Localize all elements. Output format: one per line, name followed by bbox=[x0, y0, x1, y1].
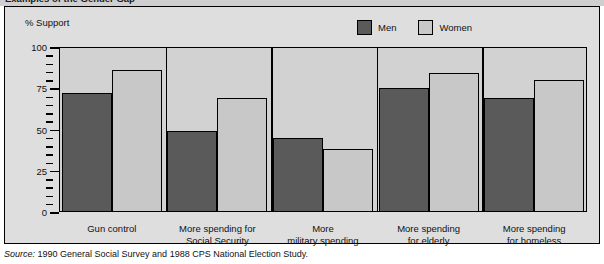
source-note: Source: 1990 General Social Survey and 1… bbox=[4, 249, 308, 259]
legend-label-women: Women bbox=[439, 22, 472, 33]
y-axis-minor-tick bbox=[46, 187, 53, 189]
y-axis-minor-tick bbox=[46, 138, 53, 140]
legend-label-men: Men bbox=[378, 22, 396, 33]
y-axis-tick-label: 50 bbox=[36, 124, 47, 135]
y-axis-minor-tick bbox=[46, 154, 53, 156]
bar-men-3 bbox=[379, 88, 429, 212]
bar-men-0 bbox=[62, 93, 112, 212]
bar-women-4 bbox=[534, 80, 584, 212]
legend-item-men[interactable]: Men bbox=[357, 20, 396, 35]
chart-legend: Men Women bbox=[357, 20, 472, 35]
y-axis-minor-tick bbox=[46, 113, 53, 115]
y-axis-tick-label: 100 bbox=[31, 42, 47, 53]
y-axis-minor-tick bbox=[46, 97, 53, 99]
x-axis-label-line: More spending for bbox=[165, 223, 271, 235]
legend-swatch-women bbox=[418, 20, 433, 35]
y-axis-minor-tick bbox=[46, 204, 53, 206]
plot-region bbox=[59, 47, 587, 212]
y-axis-minor-tick bbox=[46, 105, 53, 107]
source-label: Source: bbox=[4, 249, 35, 259]
x-axis-label-4: More spendingfor homeless bbox=[481, 219, 587, 245]
x-axis-label-1: More spending forSocial Security bbox=[165, 219, 271, 245]
bar-women-3 bbox=[429, 73, 479, 212]
y-axis-minor-tick bbox=[46, 80, 53, 82]
x-axis-label-line: Social Security bbox=[165, 235, 271, 247]
y-axis: 0255075100 bbox=[5, 47, 59, 213]
y-axis-tick bbox=[50, 88, 59, 90]
x-axis-label-line: for homeless bbox=[481, 235, 587, 247]
legend-swatch-men bbox=[357, 20, 372, 35]
y-axis-minor-tick bbox=[46, 179, 53, 181]
legend-item-women[interactable]: Women bbox=[418, 20, 472, 35]
y-axis-minor-tick bbox=[46, 55, 53, 57]
y-axis-minor-tick bbox=[46, 121, 53, 123]
bars-layer bbox=[59, 47, 587, 212]
x-axis-label-3: More spendingfor elderly bbox=[376, 219, 482, 245]
source-text: 1990 General Social Survey and 1988 CPS … bbox=[38, 249, 309, 259]
chart-panel: % Support Men Women 0255075100 Gun contr… bbox=[4, 6, 600, 244]
y-axis-minor-tick bbox=[46, 196, 53, 198]
y-axis-minor-tick bbox=[46, 163, 53, 165]
bar-women-2 bbox=[323, 149, 373, 212]
bar-men-4 bbox=[484, 98, 534, 212]
y-axis-tick-label: 0 bbox=[42, 207, 47, 218]
x-axis-label-line: Gun control bbox=[59, 223, 165, 235]
y-axis-tick-label: 75 bbox=[36, 83, 47, 94]
figure-root: Examples of the Gender Gap % Support Men… bbox=[0, 0, 604, 264]
bar-women-0 bbox=[112, 70, 162, 212]
bar-women-1 bbox=[217, 98, 267, 212]
x-axis-label-line: for elderly bbox=[376, 235, 482, 247]
y-axis-title: % Support bbox=[25, 17, 69, 28]
x-axis-label-2: Moremilitary spending bbox=[270, 219, 376, 245]
x-axis-label-line: More bbox=[270, 223, 376, 235]
y-axis-tick bbox=[50, 171, 59, 173]
bar-men-1 bbox=[167, 131, 217, 212]
page-title: Examples of the Gender Gap bbox=[5, 0, 135, 4]
x-axis-label-line: military spending bbox=[270, 235, 376, 247]
x-axis-label-line: More spending bbox=[481, 223, 587, 235]
y-axis-tick bbox=[50, 47, 59, 49]
y-axis-tick bbox=[50, 130, 59, 132]
y-axis-tick-label: 25 bbox=[36, 165, 47, 176]
y-axis-minor-tick bbox=[46, 72, 53, 74]
x-axis-labels: Gun controlMore spending forSocial Secur… bbox=[59, 219, 587, 245]
bar-men-2 bbox=[273, 138, 323, 212]
x-axis-label-line: More spending bbox=[376, 223, 482, 235]
y-axis-minor-tick bbox=[46, 146, 53, 148]
x-axis-label-0: Gun control bbox=[59, 219, 165, 245]
y-axis-tick bbox=[50, 212, 59, 214]
y-axis-minor-tick bbox=[46, 64, 53, 66]
